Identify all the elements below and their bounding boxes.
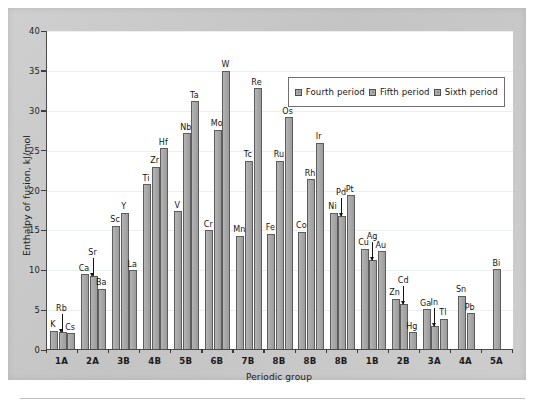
y-axis-tick-label: 10 xyxy=(16,265,40,275)
bar-zr xyxy=(152,167,160,350)
legend-label: Fifth period xyxy=(380,87,430,97)
y-axis-tick xyxy=(41,110,46,111)
legend-item-fourth-period: Fourth period xyxy=(295,87,365,97)
bar-w xyxy=(222,71,230,350)
bar-label-y: Y xyxy=(115,202,133,211)
bar-hf xyxy=(160,148,168,350)
bar-bi xyxy=(493,269,501,350)
x-axis-group-label: 3A xyxy=(419,356,449,366)
legend-swatch-icon xyxy=(434,89,441,96)
legend-swatch-icon xyxy=(369,89,376,96)
bar-label-pt: Pt xyxy=(341,185,359,194)
x-axis-group-label: 5B xyxy=(171,356,201,366)
bar-pb xyxy=(467,313,475,350)
bar-in xyxy=(431,326,439,350)
bar-label-tl: Tl xyxy=(434,308,452,317)
bar-label-ca: Ca xyxy=(75,264,93,273)
bar-pt xyxy=(347,195,355,350)
bar-label-zn: Zn xyxy=(386,288,404,297)
bar-label-hf: Hf xyxy=(154,138,172,147)
bar-au xyxy=(378,251,386,350)
label-leader-arrow-icon xyxy=(93,258,94,276)
x-axis-tick xyxy=(46,349,47,353)
bar-label-ti: Ti xyxy=(137,174,155,183)
figure-root: Enthalpy of fusion, kJ/mol 4035302520151… xyxy=(0,0,541,413)
bar-label-au: Au xyxy=(372,241,390,250)
bar-label-os: Os xyxy=(279,107,297,116)
x-axis-tick xyxy=(232,349,233,353)
bar-ta xyxy=(191,101,199,350)
y-axis-tick-label: 30 xyxy=(16,106,40,116)
bar-label-ag: Ag xyxy=(363,232,381,241)
x-axis-tick xyxy=(450,349,451,353)
bar-y xyxy=(121,213,129,350)
bar-ni xyxy=(330,213,338,350)
bar-label-zr: Zr xyxy=(146,156,164,165)
y-axis-tick xyxy=(41,150,46,151)
x-axis-group-label: 4B xyxy=(140,356,170,366)
bar-ca xyxy=(81,274,89,350)
legend-swatch-icon xyxy=(295,89,302,96)
bar-re xyxy=(254,88,262,350)
bar-label-hg: Hg xyxy=(403,322,421,331)
bar-label-nb: Nb xyxy=(177,123,195,132)
bar-ti xyxy=(143,184,151,350)
x-axis-group-label: 8B xyxy=(326,356,356,366)
x-axis-tick xyxy=(77,349,78,353)
bar-sc xyxy=(112,226,120,350)
bar-label-v: V xyxy=(168,201,186,210)
bar-mn xyxy=(236,236,244,350)
bar-k xyxy=(50,331,58,350)
bar-label-la: La xyxy=(123,260,141,269)
bar-rh xyxy=(307,179,315,350)
x-axis-tick xyxy=(357,349,358,353)
bar-pd xyxy=(338,216,346,350)
bar-fe xyxy=(267,234,275,350)
bar-label-bi: Bi xyxy=(487,259,505,268)
bar-v xyxy=(174,211,182,350)
bar-label-sc: Sc xyxy=(106,215,124,224)
y-axis-tick xyxy=(41,230,46,231)
x-axis-title: Periodic group xyxy=(46,372,512,382)
bar-label-mo: Mo xyxy=(208,119,226,128)
bar-label-sr: Sr xyxy=(84,248,102,257)
page-separator-rule xyxy=(20,398,525,399)
x-axis-tick xyxy=(170,349,171,353)
y-axis-tick-label: 5 xyxy=(16,305,40,315)
bar-label-ir: Ir xyxy=(310,132,328,141)
x-axis-group-label: 7B xyxy=(233,356,263,366)
bar-label-ba: Ba xyxy=(92,278,110,287)
x-axis-tick xyxy=(295,349,296,353)
bar-label-tc: Tc xyxy=(239,150,257,159)
x-axis-tick xyxy=(263,349,264,353)
x-axis-group-label: 1A xyxy=(47,356,77,366)
x-axis-group-label: 3B xyxy=(109,356,139,366)
bar-label-ru: Ru xyxy=(270,150,288,159)
x-axis-tick xyxy=(512,349,513,353)
bar-label-ta: Ta xyxy=(185,91,203,100)
x-axis-labels: 1A2A3B4B5B6B7B8B8B8B1B2B3A4A5A xyxy=(46,356,512,370)
y-axis-tick-label: 35 xyxy=(16,66,40,76)
y-axis-tick xyxy=(41,270,46,271)
bar-ag xyxy=(369,260,377,350)
x-axis-group-label: 6B xyxy=(202,356,232,366)
bar-label-cd: Cd xyxy=(394,276,412,285)
x-axis-tick xyxy=(108,349,109,353)
bar-cs xyxy=(67,333,75,350)
bar-mo xyxy=(214,130,222,350)
chart-legend: Fourth period Fifth period Sixth period xyxy=(288,77,505,107)
bar-la xyxy=(129,270,137,350)
bar-ba xyxy=(98,289,106,350)
bar-nb xyxy=(183,133,191,350)
y-axis-tick-label: 40 xyxy=(16,26,40,36)
label-leader-arrow-icon xyxy=(403,286,404,304)
y-axis-tick xyxy=(41,70,46,71)
x-axis-tick xyxy=(201,349,202,353)
legend-label: Fourth period xyxy=(306,87,365,97)
bar-label-cs: Cs xyxy=(61,323,79,332)
x-axis-tick xyxy=(388,349,389,353)
bar-tc xyxy=(245,161,253,350)
x-axis-tick xyxy=(419,349,420,353)
bar-label-re: Re xyxy=(248,78,266,87)
bar-label-rh: Rh xyxy=(301,169,319,178)
